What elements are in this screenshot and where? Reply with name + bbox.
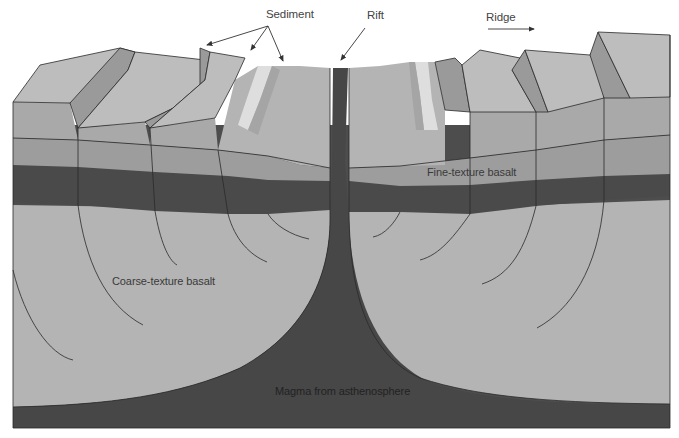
rift-diagram xyxy=(0,0,679,438)
rift-label: Rift xyxy=(367,9,384,21)
upper-layer-left xyxy=(13,102,78,140)
magma-label: Magma from asthenosphere xyxy=(275,385,410,397)
coarse-basalt-label: Coarse-texture basalt xyxy=(112,275,215,287)
rift-arrow xyxy=(341,28,365,60)
ridge-label: Ridge xyxy=(486,11,516,23)
sediment-label: Sediment xyxy=(266,8,314,20)
fine-basalt-label: Fine-texture basalt xyxy=(427,166,516,178)
upper-layer-right-1 xyxy=(604,97,670,140)
